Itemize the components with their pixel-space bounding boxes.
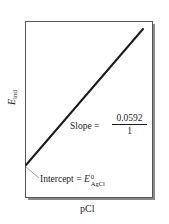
y-axis-label: Eind — [6, 90, 17, 105]
data-line — [26, 29, 143, 165]
y-axis-label-sub: ind — [11, 90, 19, 99]
intercept-prefix: Intercept = — [40, 174, 82, 184]
slope-denominator: 1 — [112, 125, 147, 136]
slope-numerator: 0.0592 — [112, 113, 147, 125]
intercept-symbol-main: E — [84, 174, 90, 184]
intercept-symbol-scripts: 0AgCl — [91, 173, 105, 187]
intercept-subscript: AgCl — [91, 180, 105, 187]
intercept-superscript: 0 — [91, 173, 105, 180]
y-axis-label-main: E — [6, 99, 17, 105]
x-axis-label: pCl — [80, 203, 94, 214]
slope-fraction: 0.0592 1 — [112, 113, 147, 136]
intercept-annotation: Intercept = E0AgCl — [40, 173, 105, 187]
slope-prefix: Slope = — [70, 121, 99, 131]
plot-lines — [0, 0, 169, 224]
intercept-leader-line — [26, 167, 39, 178]
